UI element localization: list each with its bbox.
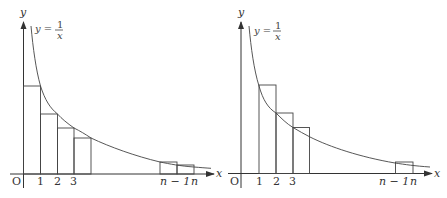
figure-canvas: y x O 1 2 3 n − 1 n y = 1 x y x O 1 bbox=[0, 0, 447, 198]
curve-equation-label: y = 1 x bbox=[34, 19, 63, 41]
y-axis-arrow-icon bbox=[238, 21, 244, 29]
right-graph: y x O 1 2 3 n − 1 n y = 1 x bbox=[228, 6, 441, 188]
tick-1: 1 bbox=[37, 175, 44, 188]
tick-1: 1 bbox=[256, 175, 263, 188]
tick-n-minus-1: n − 1 bbox=[160, 175, 190, 188]
svg-text:1: 1 bbox=[275, 20, 281, 31]
x-axis-arrow-icon bbox=[424, 171, 433, 177]
curve-equation-label: y = 1 x bbox=[253, 20, 281, 42]
origin-label: O bbox=[230, 175, 239, 188]
x-axis-label: x bbox=[434, 167, 441, 180]
svg-text:y =: y = bbox=[34, 23, 52, 34]
tick-n: n bbox=[410, 175, 417, 188]
tick-2: 2 bbox=[273, 175, 280, 188]
y-axis-arrow-icon bbox=[21, 21, 27, 29]
origin-label: O bbox=[12, 175, 21, 188]
rectangles-right bbox=[259, 85, 413, 174]
y-axis-label: y bbox=[237, 6, 245, 19]
x-axis-label: x bbox=[216, 167, 223, 180]
svg-text:y =: y = bbox=[253, 25, 271, 36]
rectangles-left bbox=[24, 86, 195, 174]
svg-text:x: x bbox=[275, 31, 281, 42]
tick-n: n bbox=[191, 175, 198, 188]
x-axis-arrow-icon bbox=[206, 171, 215, 177]
tick-3: 3 bbox=[70, 175, 77, 188]
y-axis-label: y bbox=[19, 6, 27, 19]
svg-text:1: 1 bbox=[57, 19, 63, 30]
tick-n-minus-1: n − 1 bbox=[379, 175, 409, 188]
svg-text:x: x bbox=[57, 30, 63, 41]
tick-2: 2 bbox=[54, 175, 61, 188]
curve-y-1-over-x bbox=[31, 26, 211, 168]
tick-3: 3 bbox=[289, 175, 296, 188]
left-graph: y x O 1 2 3 n − 1 n y = 1 x bbox=[10, 6, 223, 188]
